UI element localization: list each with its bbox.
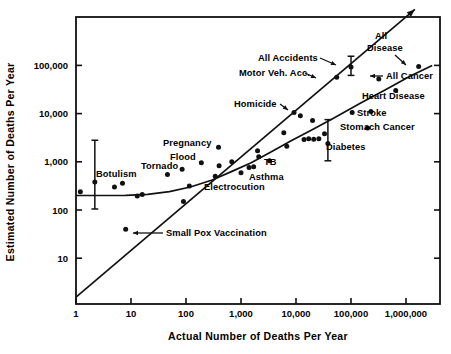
point-21 bbox=[311, 137, 316, 142]
y-tick-label-4: 100,000 bbox=[34, 60, 68, 71]
point-tornado bbox=[165, 172, 170, 177]
point-4 bbox=[135, 194, 140, 199]
point-13 bbox=[256, 154, 261, 159]
label-diabetes: Diabetes bbox=[326, 142, 366, 152]
x-tick-label-4: 10,000 bbox=[281, 308, 310, 319]
label-all-accidents: All Accidents bbox=[258, 53, 318, 63]
point-electrocution bbox=[239, 170, 244, 175]
point-2 bbox=[112, 185, 117, 190]
label-flood: Flood bbox=[170, 152, 196, 162]
point-botulism bbox=[92, 180, 97, 185]
label-heart-disease: Heart Disease bbox=[362, 91, 425, 101]
point-all-cancer bbox=[376, 77, 381, 82]
label-tb: TB bbox=[264, 157, 277, 167]
label-tornado: Tornado bbox=[141, 161, 178, 171]
label-all-cancer: All Cancer bbox=[386, 71, 433, 81]
label-electrocution: Electrocution bbox=[204, 182, 265, 192]
point-8 bbox=[199, 160, 204, 165]
point-flood bbox=[180, 167, 185, 172]
point-homicide bbox=[292, 110, 297, 115]
y-tick-label-0: 10 bbox=[57, 253, 68, 264]
x-tick-label-3: 1,000 bbox=[229, 308, 253, 319]
x-tick-label-2: 100 bbox=[178, 308, 194, 319]
x-axis-title: Actual Number of Deaths Per Year bbox=[168, 330, 348, 342]
point-24 bbox=[350, 110, 355, 115]
point-6 bbox=[181, 199, 186, 204]
label-stroke: Stroke bbox=[357, 108, 387, 118]
point-small-pox-vaccination bbox=[123, 227, 128, 232]
point-18 bbox=[302, 137, 307, 142]
point-20 bbox=[310, 118, 315, 123]
chart-canvas: 1101001,00010,000100,0001,000,000 101001… bbox=[0, 0, 451, 354]
point-pregnancy bbox=[216, 145, 221, 150]
point-19 bbox=[306, 136, 311, 141]
label-motor-veh-acc: Motor Veh. Acc. bbox=[239, 68, 310, 78]
point-motor-veh-acc bbox=[334, 75, 339, 80]
label-all-disease-line2: Disease bbox=[367, 43, 403, 53]
point-all-disease bbox=[416, 64, 421, 69]
label-stomach-cancer: Stomach Cancer bbox=[340, 122, 415, 132]
point-all-accidents bbox=[349, 64, 354, 69]
point-9 bbox=[213, 174, 218, 179]
point-3 bbox=[120, 181, 125, 186]
point-23 bbox=[322, 131, 327, 136]
x-tick-label-5: 100,000 bbox=[334, 308, 368, 319]
x-tick-label-1: 10 bbox=[126, 308, 137, 319]
x-tick-label-6: 1,000,000 bbox=[385, 308, 427, 319]
point-7 bbox=[187, 183, 192, 188]
y-tick-label-3: 10,000 bbox=[39, 108, 68, 119]
chart-background bbox=[0, 0, 451, 354]
point-asthma bbox=[247, 165, 252, 170]
y-axis-title: Estimated Number of Deaths Per Year bbox=[4, 63, 16, 262]
point-17 bbox=[298, 113, 303, 118]
point-10 bbox=[217, 163, 222, 168]
point-12 bbox=[251, 164, 256, 169]
label-small-pox-vaccination: Small Pox Vaccination bbox=[166, 228, 267, 238]
point-22 bbox=[316, 136, 321, 141]
risk-perception-scatter-chart: 1101001,00010,000100,0001,000,000 101001… bbox=[0, 0, 451, 354]
x-tick-label-0: 1 bbox=[73, 308, 79, 319]
label-asthma: Asthma bbox=[249, 172, 284, 182]
y-tick-label-2: 1,000 bbox=[44, 156, 68, 167]
point-15 bbox=[284, 144, 289, 149]
point-5 bbox=[140, 192, 145, 197]
point-1 bbox=[78, 189, 83, 194]
y-tick-label-1: 100 bbox=[52, 205, 68, 216]
label-pregnancy: Pregnancy bbox=[163, 138, 212, 148]
label-botulism: Botulism bbox=[96, 169, 137, 179]
point-16 bbox=[281, 130, 286, 135]
point-14 bbox=[255, 148, 260, 153]
label-homicide: Homicide bbox=[234, 99, 277, 109]
label-all-disease-line1: All bbox=[375, 31, 387, 41]
point-11 bbox=[229, 159, 234, 164]
